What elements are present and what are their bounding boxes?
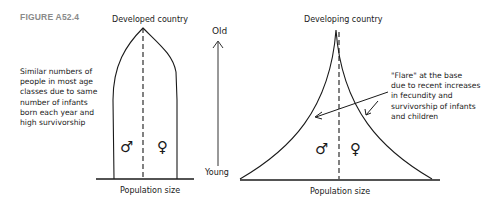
developed-xlabel: Population size: [120, 186, 180, 196]
male-symbol-icon: ♂: [315, 140, 328, 158]
female-symbol-icon: ♀: [350, 140, 361, 158]
male-symbol-icon: ♂: [120, 138, 133, 156]
female-symbol-icon: ♀: [157, 138, 168, 156]
developed-outline: [113, 28, 177, 179]
age-axis: [213, 41, 223, 166]
age-young-label: Young: [205, 168, 229, 178]
annotation-line: survivorship of infants: [391, 102, 500, 112]
developing-annotation: "Flare" at the base due to recent increa…: [391, 71, 500, 122]
annotation-line: "Flare" at the base: [391, 71, 500, 81]
developed-pyramid: [96, 28, 194, 179]
developing-xlabel: Population size: [310, 187, 370, 197]
annotation-line: and children: [391, 112, 500, 122]
age-old-label: Old: [212, 26, 227, 36]
arrow-right-line: [366, 101, 378, 115]
developing-title: Developing country: [304, 15, 382, 25]
annotation-line: due to recent increases: [391, 81, 500, 91]
annotation-line: in fecundity and: [391, 91, 500, 101]
